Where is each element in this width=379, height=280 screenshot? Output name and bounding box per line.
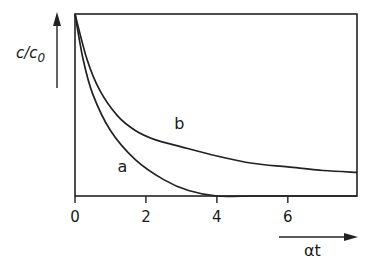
x-tick-label: 2 <box>141 208 151 226</box>
y-axis-label: c/c0 <box>16 44 46 65</box>
x-tick-label: 6 <box>283 208 293 226</box>
x-axis-arrow-icon <box>279 233 358 241</box>
curve-label-a: a <box>118 157 128 176</box>
x-tick-label: 0 <box>70 208 80 226</box>
x-axis-label: αt <box>304 241 321 260</box>
curve-b <box>75 14 357 172</box>
y-axis-arrow-icon <box>53 12 61 88</box>
x-axis-ticks: 0246 <box>70 196 292 226</box>
chart: 0246 ab c/c0 αt <box>0 0 379 280</box>
curve-label-b: b <box>174 114 184 133</box>
x-tick-label: 4 <box>212 208 222 226</box>
